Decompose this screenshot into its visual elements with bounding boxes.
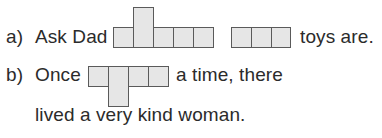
letter-box[interactable]: [271, 27, 291, 48]
sentence-text: Once: [35, 64, 81, 86]
letter-box-tall[interactable]: [108, 66, 129, 107]
letter-box-tall[interactable]: [133, 7, 154, 48]
letter-box[interactable]: [128, 66, 149, 87]
letter-box[interactable]: [251, 27, 272, 48]
letter-box[interactable]: [88, 66, 109, 87]
letter-box[interactable]: [193, 27, 214, 48]
sentence-text: Ask Dad: [35, 26, 108, 48]
letter-box[interactable]: [113, 27, 134, 48]
sentence-text: toys are.: [300, 26, 374, 48]
sentence-text: lived a very kind woman.: [35, 104, 245, 126]
letter-box[interactable]: [231, 27, 252, 48]
item-label: b): [6, 64, 23, 86]
sentence-text: a time, there: [176, 64, 283, 86]
item-label: a): [6, 26, 23, 48]
letter-box[interactable]: [173, 27, 194, 48]
letter-box[interactable]: [148, 66, 169, 87]
letter-box[interactable]: [153, 27, 174, 48]
